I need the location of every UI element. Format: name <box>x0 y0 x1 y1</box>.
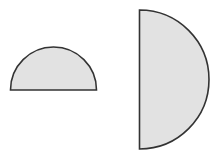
large-semicircle <box>140 10 210 149</box>
small-semicircle <box>11 47 97 90</box>
diagram-canvas <box>0 0 217 156</box>
